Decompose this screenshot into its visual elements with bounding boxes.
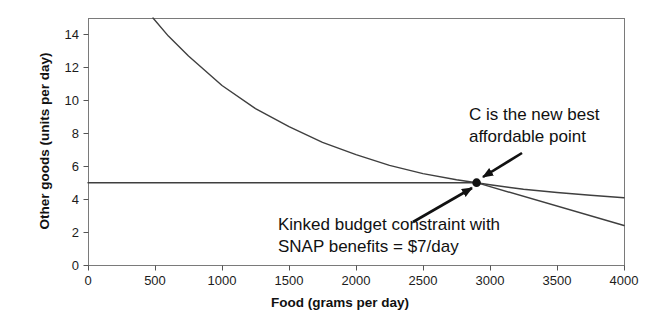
x-tick-label: 500 — [125, 273, 185, 288]
y-tick-label: 14 — [49, 27, 79, 42]
x-tick-label: 3500 — [527, 273, 587, 288]
x-tick-label: 4000 — [594, 273, 654, 288]
y-tick-label: 2 — [49, 225, 79, 240]
chart-canvas: Other goods (units per day) Food (grams … — [0, 0, 667, 323]
y-tick-label: 0 — [49, 258, 79, 273]
x-tick-label: 3000 — [460, 273, 520, 288]
annotation-kink-budget: Kinked budget constraint with SNAP benef… — [278, 214, 500, 258]
y-tick-label: 12 — [49, 60, 79, 75]
arrow-c-label-to-point — [483, 153, 522, 177]
x-tick-label: 2000 — [326, 273, 386, 288]
x-tick-label: 1000 — [192, 273, 252, 288]
y-tick-label: 4 — [49, 192, 79, 207]
x-tick-label: 0 — [58, 273, 118, 288]
annotation-c-point: C is the new best affordable point — [469, 104, 599, 148]
x-tick-label: 1500 — [259, 273, 319, 288]
y-tick-label: 10 — [49, 93, 79, 108]
y-tick-label: 8 — [49, 126, 79, 141]
x-axis-title: Food (grams per day) — [271, 295, 409, 310]
x-tick-label: 2500 — [393, 273, 453, 288]
point-c — [472, 178, 481, 187]
y-tick-label: 6 — [49, 159, 79, 174]
